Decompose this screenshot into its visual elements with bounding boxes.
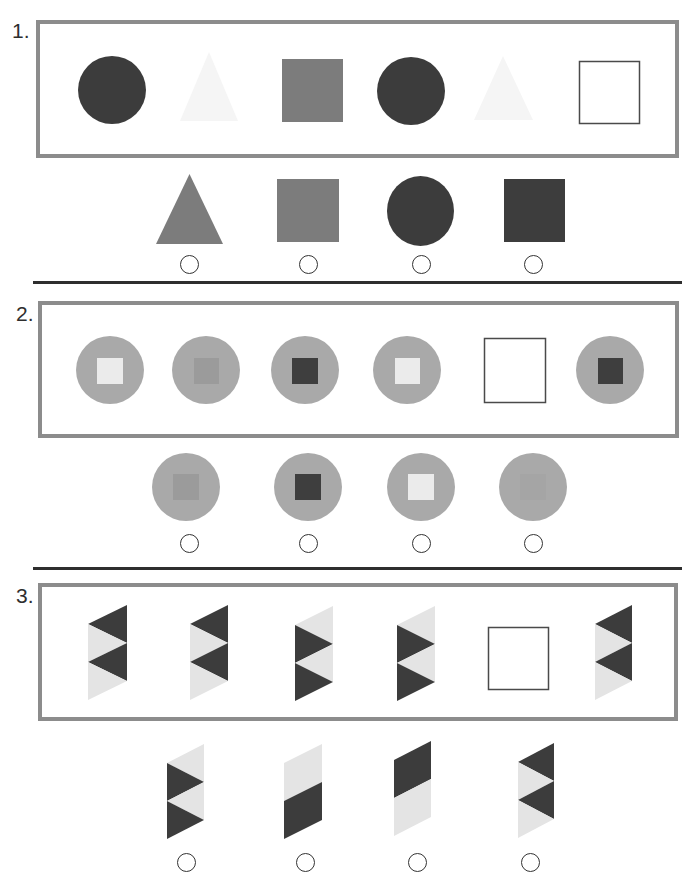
answer-radio-3b[interactable] [296, 853, 315, 872]
triangle-piece [518, 762, 554, 800]
problem-1-number: 1. [12, 19, 30, 43]
answer-option-2d-inner-square [520, 474, 546, 500]
triangle-piece [518, 781, 554, 819]
problem-1-sequence-frame [36, 20, 679, 158]
problem-2-sequence-frame [38, 301, 679, 438]
answer-option-2c-inner-square [408, 474, 434, 500]
answer-option-1a-triangle [156, 174, 223, 244]
triangle-piece [167, 782, 204, 820]
upper-half-piece [284, 744, 322, 801]
answer-option-1c-circle [387, 176, 454, 246]
divider-2 [33, 567, 682, 570]
answer-option-1d-square [504, 179, 565, 242]
answer-option-3a [167, 744, 204, 839]
divider-1 [33, 281, 682, 284]
triangle-piece [167, 744, 204, 782]
answer-radio-3a[interactable] [177, 853, 196, 872]
answer-radio-2c[interactable] [412, 534, 431, 553]
answer-option-2b-circle [274, 453, 342, 521]
answer-option-2a-inner-square [173, 474, 199, 500]
answer-option-1b-square [277, 179, 339, 242]
problem-3-number: 3. [16, 584, 34, 608]
lower-half-piece [394, 779, 431, 836]
triangle-piece [167, 801, 204, 839]
answer-radio-3c[interactable] [408, 853, 427, 872]
answer-radio-1a[interactable] [180, 255, 199, 274]
answer-option-3d [518, 743, 554, 838]
answer-option-3b [284, 744, 322, 839]
upper-half-piece [394, 741, 431, 798]
answer-radio-1d[interactable] [524, 255, 543, 274]
answer-radio-2d[interactable] [524, 534, 543, 553]
answer-radio-1b[interactable] [299, 255, 318, 274]
answer-radio-3d[interactable] [521, 853, 540, 872]
triangle-piece [167, 763, 204, 801]
answer-option-2a-circle [152, 453, 220, 521]
triangle-piece [518, 743, 554, 781]
problem-3-sequence-frame [38, 583, 678, 721]
answer-option-2b-inner-square [295, 474, 321, 500]
triangle-piece [518, 800, 554, 838]
problem-2-options [152, 453, 567, 521]
answer-option-3c [394, 741, 431, 836]
problem-3-options [167, 741, 554, 839]
problem-1-options [156, 174, 565, 246]
answer-radio-1c[interactable] [412, 255, 431, 274]
answer-radio-2a[interactable] [180, 534, 199, 553]
answer-radio-2b[interactable] [299, 534, 318, 553]
problem-2-number: 2. [16, 302, 34, 326]
answer-option-2c-circle [387, 453, 455, 521]
answer-option-2d-circle [499, 453, 567, 521]
lower-half-piece [284, 782, 322, 839]
